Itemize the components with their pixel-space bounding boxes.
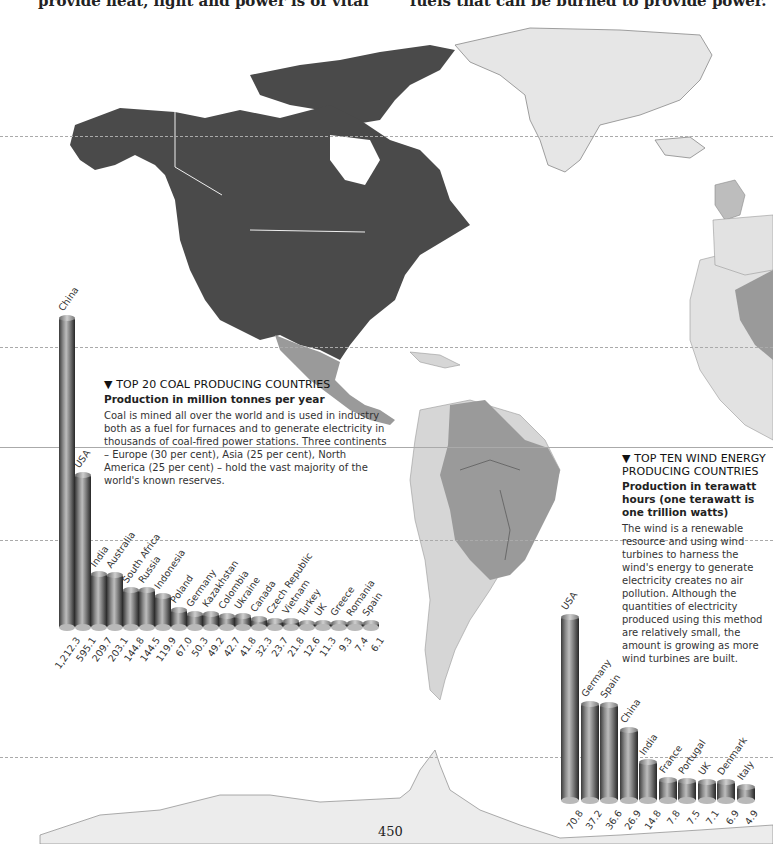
bar-base <box>59 624 75 631</box>
latitude-line <box>0 757 773 758</box>
bar-base <box>107 624 123 631</box>
bar-base <box>600 797 618 804</box>
bar-base <box>717 797 735 804</box>
bar-base <box>75 624 91 631</box>
bar-base <box>219 624 235 631</box>
bar <box>107 575 123 627</box>
bar-base <box>581 797 599 804</box>
coal-chart-subtitle: Production in million tonnes per year <box>104 393 389 406</box>
coal-chart-title: ▼ TOP 20 COAL PRODUCING COUNTRIES <box>104 378 389 391</box>
bar <box>139 590 155 627</box>
latitude-line <box>0 347 773 348</box>
bar-base <box>299 624 315 631</box>
wind-caption: ▼ TOP TEN WIND ENERGY PRODUCING COUNTRIE… <box>622 452 772 665</box>
bar <box>155 596 171 627</box>
bar <box>561 617 579 800</box>
bar-base <box>363 624 379 631</box>
bar-base <box>737 797 755 804</box>
bar-base <box>203 624 219 631</box>
bar <box>59 318 75 627</box>
bar-base <box>678 797 696 804</box>
bar-base <box>171 624 187 631</box>
bar-base <box>187 624 203 631</box>
bar <box>123 590 139 627</box>
iceland <box>655 137 705 158</box>
bar <box>75 475 91 627</box>
bar <box>639 762 657 800</box>
bar-base <box>639 797 657 804</box>
bar-base <box>155 624 171 631</box>
bar-base <box>235 624 251 631</box>
bar-base <box>251 624 267 631</box>
bar <box>581 704 599 800</box>
bar-base <box>267 624 283 631</box>
coal-caption: ▼ TOP 20 COAL PRODUCING COUNTRIES Produc… <box>104 378 389 487</box>
bar-base <box>315 624 331 631</box>
page-number: 450 <box>378 824 403 839</box>
latitude-line <box>0 136 773 137</box>
bar-base <box>139 624 155 631</box>
bar <box>91 574 107 627</box>
bar-base <box>331 624 347 631</box>
bar-base <box>123 624 139 631</box>
north-america <box>70 105 470 360</box>
coal-chart-description: Coal is mined all over the world and is … <box>104 409 389 487</box>
wind-chart-description: The wind is a renewable resource and usi… <box>622 522 772 665</box>
bar-base <box>620 797 638 804</box>
bar-base <box>659 797 677 804</box>
wind-chart-subtitle: Production in terawatt hours (one terawa… <box>622 480 772 519</box>
bar-base <box>347 624 363 631</box>
bar <box>600 705 618 800</box>
bar-base <box>91 624 107 631</box>
wind-chart-title: ▼ TOP TEN WIND ENERGY PRODUCING COUNTRIE… <box>622 452 772 478</box>
bar-base <box>561 797 579 804</box>
arctic-islands <box>250 45 455 125</box>
bar <box>620 730 638 800</box>
bar-base <box>698 797 716 804</box>
bar-base <box>283 624 299 631</box>
europe <box>715 180 745 220</box>
